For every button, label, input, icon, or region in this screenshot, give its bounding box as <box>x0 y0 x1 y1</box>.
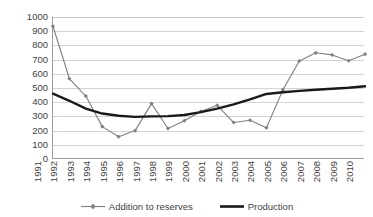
data-point-marker <box>314 51 318 55</box>
x-axis: 1991199219931994199519961997199819992000… <box>52 161 364 199</box>
y-tick-label: 400 <box>2 97 48 107</box>
chart-legend: Addition to reservesProduction <box>0 198 373 214</box>
y-tick-label: 800 <box>2 40 48 50</box>
data-point-marker <box>182 119 186 123</box>
legend-label: Production <box>248 201 293 212</box>
data-point-marker <box>363 52 367 56</box>
series-addition-to-reserves <box>51 24 367 139</box>
data-point-marker <box>330 53 334 57</box>
data-point-marker <box>51 24 55 28</box>
data-point-marker <box>264 126 268 130</box>
y-axis: 01002003004005006007008009001000 <box>0 0 48 176</box>
legend-item[interactable]: Production <box>219 201 293 212</box>
legend-label: Addition to reserves <box>109 201 193 212</box>
y-tick-label: 300 <box>2 111 48 121</box>
y-tick-label: 700 <box>2 55 48 65</box>
thick-line-icon <box>219 201 245 212</box>
legend-item[interactable]: Addition to reserves <box>80 201 193 212</box>
y-tick-label: 1000 <box>2 12 48 22</box>
plot-area <box>52 17 364 159</box>
x-tick-label: 2010 <box>345 161 373 182</box>
y-tick-label: 600 <box>2 69 48 79</box>
series-production <box>53 86 365 117</box>
y-tick-label: 100 <box>2 140 48 150</box>
data-point-marker <box>346 59 350 63</box>
y-tick-label: 500 <box>2 83 48 93</box>
y-tick-label: 200 <box>2 126 48 136</box>
series-line <box>53 26 365 136</box>
series-line <box>53 86 365 117</box>
data-point-marker <box>248 118 252 122</box>
y-tick-label: 900 <box>2 26 48 36</box>
line-chart: 01002003004005006007008009001000 1991199… <box>0 0 373 217</box>
line-with-diamond-marker-icon <box>80 201 106 212</box>
series-layer <box>53 17 365 159</box>
